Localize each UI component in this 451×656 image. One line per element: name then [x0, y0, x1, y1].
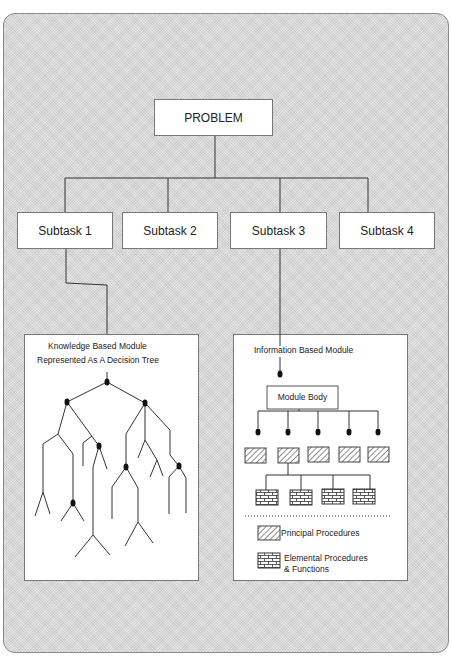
knowledge-module-title: Knowledge Based Module [48, 341, 147, 351]
module-body-label: Module Body [267, 386, 338, 409]
brick-box-icon [258, 553, 280, 568]
module-drawings [0, 0, 451, 656]
legend-elemental-label-2: & Functions [284, 564, 329, 574]
knowledge-module-subtitle: Represented As A Decision Tree [37, 355, 159, 365]
hatched-box-icon [258, 526, 280, 540]
legend-elemental-label: Elemental Procedures [284, 553, 368, 563]
elemental-procedure-icons [256, 489, 375, 505]
legend-principal-label: Principal Procedures [281, 528, 359, 538]
principal-procedure-icons [245, 447, 389, 463]
information-module-title: Information Based Module [254, 345, 353, 355]
